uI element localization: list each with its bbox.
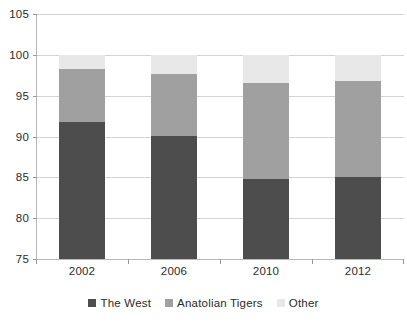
bar-segment[interactable] — [59, 69, 105, 122]
x-tick-label: 2002 — [36, 265, 128, 277]
y-axis: 1051009590858075 — [0, 0, 34, 270]
x-axis-labels: 2002200620102012 — [36, 265, 404, 277]
y-tick-label: 90 — [16, 131, 29, 143]
bar-stack[interactable] — [243, 55, 289, 259]
x-tick: 2010 — [220, 265, 312, 277]
bar-segment[interactable] — [335, 55, 381, 81]
y-tick-label: 80 — [16, 212, 29, 224]
legend-swatch-icon — [165, 299, 173, 307]
x-tick-mark — [128, 259, 129, 264]
y-tick-label: 85 — [16, 171, 29, 183]
bar-stack[interactable] — [151, 55, 197, 259]
legend-item[interactable]: The West — [88, 297, 151, 309]
bar-segment[interactable] — [59, 55, 105, 69]
bar-stack[interactable] — [59, 55, 105, 259]
legend-swatch-icon — [277, 299, 285, 307]
bar-segment[interactable] — [151, 55, 197, 75]
bar-stack[interactable] — [335, 55, 381, 259]
bar-segment[interactable] — [243, 179, 289, 259]
x-tick-mark — [403, 259, 404, 264]
x-tick-mark — [220, 259, 221, 264]
legend-swatch-icon — [88, 299, 96, 307]
x-tick-label: 2010 — [220, 265, 312, 277]
y-tick-label: 105 — [9, 8, 29, 20]
chart-legend: The WestAnatolian TigersOther — [0, 297, 407, 309]
bar-segment[interactable] — [151, 136, 197, 259]
bar-segment[interactable] — [59, 122, 105, 259]
bar-slot — [220, 14, 312, 259]
legend-label: The West — [100, 297, 151, 309]
bar-segment[interactable] — [243, 83, 289, 179]
legend-label: Other — [289, 297, 319, 309]
x-tick: 2002 — [36, 265, 128, 277]
stacked-bar-chart: 1051009590858075 2002200620102012 The We… — [0, 0, 407, 323]
bar-segment[interactable] — [243, 55, 289, 84]
x-tick-mark — [36, 259, 37, 264]
legend-label: Anatolian Tigers — [177, 297, 263, 309]
plot-wrapper: 1051009590858075 2002200620102012 — [0, 0, 407, 270]
legend-item[interactable]: Other — [277, 297, 319, 309]
bar-segment[interactable] — [151, 74, 197, 135]
x-tick: 2012 — [312, 265, 404, 277]
bar-segment[interactable] — [335, 177, 381, 259]
y-tick-label: 75 — [16, 253, 29, 265]
x-tick: 2006 — [128, 265, 220, 277]
y-tick-label: 95 — [16, 90, 29, 102]
legend-item[interactable]: Anatolian Tigers — [165, 297, 263, 309]
bar-slot — [128, 14, 220, 259]
bar-slot — [312, 14, 404, 259]
y-tick-label: 100 — [9, 49, 29, 61]
x-tick-label: 2006 — [128, 265, 220, 277]
bars-layer — [36, 14, 404, 259]
x-tick-label: 2012 — [312, 265, 404, 277]
bar-slot — [36, 14, 128, 259]
x-tick-mark — [312, 259, 313, 264]
bar-segment[interactable] — [335, 81, 381, 177]
